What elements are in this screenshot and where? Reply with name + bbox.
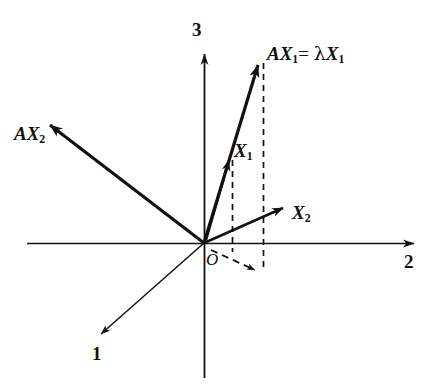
vector-x1 <box>206 160 229 240</box>
ax1-label-main: AX <box>267 43 292 64</box>
x1-label-main: X <box>234 140 247 161</box>
x2-label-sub: 2 <box>305 212 311 225</box>
origin-label: O <box>206 251 218 268</box>
axis-label-2: 2 <box>404 252 414 271</box>
axis-label-1: 1 <box>92 344 102 363</box>
diagram-canvas <box>0 0 435 389</box>
ax1-label-equals: = <box>298 43 309 64</box>
ax1-label-tail: X <box>326 43 339 64</box>
ax1-label-tail-sub: 1 <box>338 53 344 66</box>
vector-x2 <box>204 208 283 243</box>
x2-label-main: X <box>292 202 305 223</box>
lambda-symbol: λ <box>314 42 326 64</box>
vector-label-ax1: AX1= λX1 <box>267 44 344 65</box>
vector-ax2 <box>50 125 204 243</box>
axis-1-line <box>101 243 204 334</box>
ax2-label-sub: 2 <box>39 133 45 146</box>
vector-label-ax2: AX2 <box>14 124 45 145</box>
vector-label-x2: X2 <box>292 203 311 224</box>
ax2-label-main: AX <box>14 123 39 144</box>
vector-label-x1: X1 <box>234 141 253 162</box>
axis-label-3: 3 <box>192 20 202 39</box>
eigenvector-diagram: 3 2 1 O AX1= λX1 X1 X2 AX2 <box>0 0 435 389</box>
x1-label-sub: 1 <box>247 150 253 163</box>
